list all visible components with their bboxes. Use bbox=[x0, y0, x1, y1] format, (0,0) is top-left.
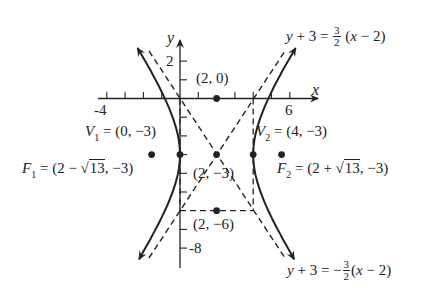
hyperbola-left-branch bbox=[137, 50, 180, 259]
eq-lower-y: y bbox=[287, 262, 294, 278]
focus-2-radicand: 13 bbox=[344, 159, 360, 176]
vertex-2-symbol: V bbox=[256, 123, 265, 139]
x-tick-label-6: 6 bbox=[285, 103, 293, 118]
eq-lower-rhs: − 2) bbox=[363, 262, 391, 278]
eq-lower-lhs: + 3 = bbox=[294, 262, 333, 278]
label-focus-1: F1 = (2 − √13, −3) bbox=[22, 161, 133, 176]
point-top-box bbox=[213, 95, 220, 102]
point-vertex-1 bbox=[177, 151, 184, 158]
label-vertex-1: V1 = (0, −3) bbox=[85, 124, 156, 139]
y-tick-label-2: 2 bbox=[166, 54, 174, 69]
focus-1-value-post: , −3) bbox=[105, 160, 133, 176]
focus-1-subscript: 1 bbox=[31, 169, 36, 180]
eq-upper-lhs: + 3 = bbox=[293, 28, 332, 44]
x-axis-ticks bbox=[107, 92, 290, 99]
focus-2-subscript: 2 bbox=[286, 169, 291, 180]
focus-2-value-post: , −3) bbox=[360, 160, 388, 176]
asymptote-lower-equation: y + 3 = −32(x − 2) bbox=[287, 260, 391, 283]
sqrt-symbol: √ bbox=[81, 160, 89, 176]
eq-upper-x: x bbox=[350, 28, 357, 44]
eq-lower-denominator: 2 bbox=[344, 271, 350, 282]
label-center: (2, −3) bbox=[193, 166, 234, 181]
hyperbola-right-curve bbox=[253, 48, 296, 259]
eq-upper-denominator: 2 bbox=[334, 37, 340, 48]
point-center bbox=[213, 151, 220, 158]
point-focus-1 bbox=[148, 151, 155, 158]
hyperbola-diagram: y x 2 -8 -4 6 (2, 0) (2, −3) (2, −6) V1 … bbox=[0, 0, 434, 304]
vertex-1-subscript: 1 bbox=[94, 132, 99, 143]
y-axis-label: y bbox=[167, 30, 174, 46]
label-bottom-box: (2, −6) bbox=[193, 217, 234, 232]
point-focus-2 bbox=[278, 151, 285, 158]
focus-1-value-pre: = (2 − bbox=[36, 160, 80, 176]
eq-lower-sign: − bbox=[333, 262, 341, 278]
hyperbola-left-curve bbox=[138, 48, 181, 259]
label-focus-2: F2 = (2 + √13, −3) bbox=[277, 161, 388, 176]
vertex-1-value: = (0, −3) bbox=[99, 123, 156, 139]
x-tick-label-neg4: -4 bbox=[94, 103, 107, 118]
focus-1-radicand: 13 bbox=[89, 159, 105, 176]
focus-1-symbol: F bbox=[22, 160, 31, 176]
label-vertex-2: V2 = (4, −3) bbox=[256, 124, 327, 139]
y-tick-label-neg8: -8 bbox=[189, 241, 202, 256]
eq-upper-fraction: 32 bbox=[333, 25, 341, 48]
label-top-box: (2, 0) bbox=[196, 71, 229, 86]
point-vertex-2 bbox=[250, 151, 257, 158]
vertex-2-value: = (4, −3) bbox=[270, 123, 327, 139]
focus-2-symbol: F bbox=[277, 160, 286, 176]
vertex-2-subscript: 2 bbox=[265, 132, 270, 143]
eq-lower-x: x bbox=[356, 262, 363, 278]
focus-2-value-pre: = (2 + bbox=[291, 160, 335, 176]
eq-upper-rhs: − 2) bbox=[357, 28, 385, 44]
vertex-1-symbol: V bbox=[85, 123, 94, 139]
eq-lower-fraction: 32 bbox=[343, 259, 351, 282]
eq-upper-y: y bbox=[286, 28, 293, 44]
x-axis-label: x bbox=[312, 82, 319, 98]
asymptote-upper-equation: y + 3 = 32 (x − 2) bbox=[286, 26, 385, 49]
sqrt-symbol: √ bbox=[336, 160, 344, 176]
point-bottom-box bbox=[213, 207, 220, 214]
